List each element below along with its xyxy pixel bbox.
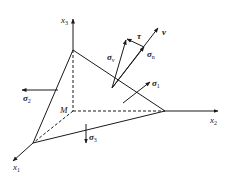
sigma-n-label: σn: [147, 50, 155, 60]
x2-axis-label: x2: [210, 116, 217, 126]
origin-label: M: [60, 106, 68, 115]
sigma-n-arrow: [112, 47, 144, 88]
diagram-graphics: [0, 0, 229, 175]
sigma-nu-label: σν: [107, 53, 115, 63]
x1-axis: [13, 143, 33, 161]
normal-nu-label: ν: [162, 28, 166, 37]
sigma3-label: σ3: [89, 133, 97, 143]
tau-label: τ: [137, 32, 141, 41]
x3-axis-label: x3: [61, 16, 68, 26]
tau-arrow: [127, 39, 144, 47]
edge-top-left: [33, 50, 73, 143]
sigma2-label: σ2: [23, 94, 31, 104]
sigma1-arrow: [123, 82, 150, 103]
sigma1-label: σ1: [152, 79, 160, 89]
x1-axis-label: x1: [13, 163, 20, 173]
tetrahedron-stress-diagram: x3 x2 x1 M σ2 σ3 σ1 σν σn τ ν: [0, 0, 229, 175]
